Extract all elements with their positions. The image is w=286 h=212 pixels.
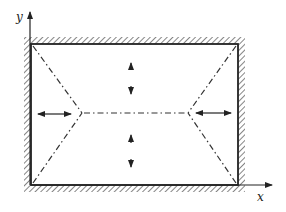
x-axis-label: x bbox=[257, 190, 264, 204]
plate-yield-line-diagram bbox=[0, 0, 286, 212]
y-axis-label: y bbox=[16, 10, 23, 24]
